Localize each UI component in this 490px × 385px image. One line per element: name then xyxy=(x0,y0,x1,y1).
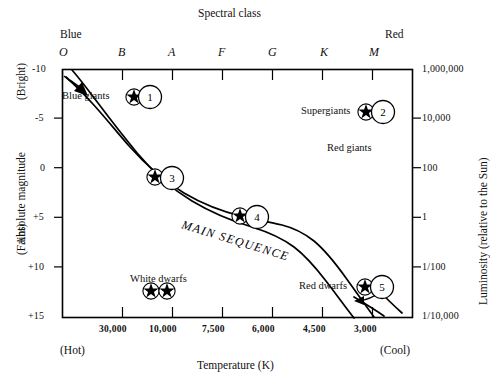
luminosity-tick-1: 1 xyxy=(422,212,427,222)
top-right-end-label: Red xyxy=(385,29,404,41)
spectral-class-label-b: B xyxy=(118,46,125,58)
magnitude-tick-+15: +15 xyxy=(28,311,44,321)
spectral-class-label-g: G xyxy=(268,46,277,58)
spectral-class-label-m: M xyxy=(369,46,379,58)
right-axis-title: Luminosity (relative to the Sun) xyxy=(478,157,490,305)
callout-number-4: 4 xyxy=(254,211,260,223)
spectral-class-label-f: F xyxy=(218,46,225,58)
luminosity-tick-10000: 10,000 xyxy=(422,113,451,123)
main-sequence-label-text: MAIN SEQUENCE xyxy=(179,217,291,263)
bottom-axis-ticks xyxy=(123,307,373,318)
callout-circle-5: 5 xyxy=(371,276,394,299)
callout-number-3: 3 xyxy=(169,172,175,184)
temperature-tick-10000: 10,000 xyxy=(149,325,177,335)
callout-number-1: 1 xyxy=(147,91,153,103)
plot-frame xyxy=(63,70,413,318)
star-marker-2 xyxy=(358,104,374,120)
bottom-right-cool-note: (Cool) xyxy=(380,345,410,357)
spectral-class-label-a: A xyxy=(168,46,175,58)
main-sequence-label: MAIN SEQUENCE xyxy=(179,217,291,263)
red-dwarfs-arrow-icon xyxy=(354,292,380,305)
region-label-red-dwarfs: Red dwarfs xyxy=(299,281,347,292)
left-axis-title: Absolute magnitude xyxy=(16,152,28,245)
bottom-left-hot-note: (Hot) xyxy=(60,345,85,357)
temperature-tick-3000: 3,000 xyxy=(354,325,377,335)
star-marker-1 xyxy=(126,89,142,105)
star-marker-white-dwarf-a xyxy=(143,283,159,299)
magnitude-tick--5: -5 xyxy=(35,113,44,123)
callout-number-2: 2 xyxy=(380,106,386,118)
magnitude-tick-+10: +10 xyxy=(28,262,44,272)
region-label-blue-giants: Blue giants xyxy=(62,91,110,102)
right-axis-ticks xyxy=(413,118,422,267)
magnitude-tick-+5: +5 xyxy=(33,212,44,222)
temperature-tick-4500: 4,500 xyxy=(303,325,326,335)
spectral-class-label-k: K xyxy=(320,46,328,58)
luminosity-tick-100: 100 xyxy=(422,163,438,173)
region-label-white-dwarfs: White dwarfs xyxy=(130,274,187,285)
luminosity-tick-1-100: 1/100 xyxy=(422,262,446,272)
callout-circle-1: 1 xyxy=(139,86,162,109)
callout-number-5: 5 xyxy=(379,281,385,293)
luminosity-tick-1-10000: 1/10,000 xyxy=(422,311,459,321)
spectral-class-label-o: O xyxy=(59,46,68,58)
star-marker-4 xyxy=(232,208,248,224)
luminosity-tick-1000000: 1,000,000 xyxy=(422,64,464,74)
top-left-end-label: Blue xyxy=(60,29,82,41)
left-axis-ticks xyxy=(54,118,63,267)
star-marker-5 xyxy=(357,279,373,295)
top-axis-ticks xyxy=(63,70,373,81)
left-axis-bright-note: (Bright) xyxy=(16,63,28,100)
temperature-tick-7500: 7,500 xyxy=(202,325,225,335)
temperature-tick-6000: 6,000 xyxy=(252,325,275,335)
magnitude-tick-0: 0 xyxy=(40,163,45,173)
magnitude-tick--10: -10 xyxy=(32,64,46,74)
bottom-axis-title: Temperature (K) xyxy=(197,360,274,372)
star-marker-3 xyxy=(147,169,163,185)
region-label-red-giants: Red giants xyxy=(327,143,372,154)
temperature-tick-30000: 30,000 xyxy=(99,325,127,335)
lower-branch-tails xyxy=(354,286,402,316)
star-marker-white-dwarf-b xyxy=(159,283,175,299)
callout-circle-3: 3 xyxy=(161,167,184,190)
top-axis-title: Spectral class xyxy=(198,8,261,20)
callout-circle-2: 2 xyxy=(372,101,395,124)
callout-circle-4: 4 xyxy=(246,206,269,229)
region-label-supergiants: Supergiants xyxy=(301,106,350,117)
